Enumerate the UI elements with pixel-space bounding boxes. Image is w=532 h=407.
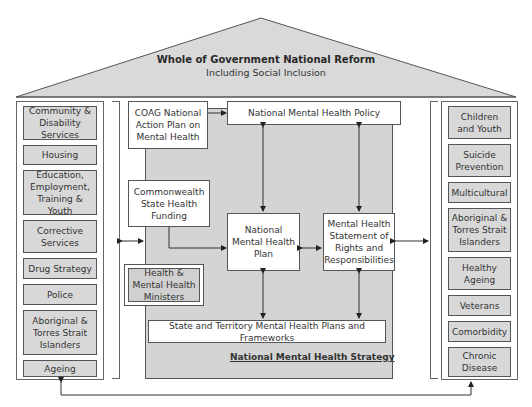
connector-arrows — [0, 0, 532, 407]
